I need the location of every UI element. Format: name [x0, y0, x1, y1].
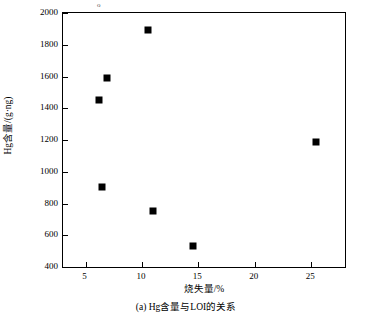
y-axis-tick-label: 600 — [45, 229, 59, 239]
y-axis-tick — [63, 108, 68, 109]
data-point — [150, 208, 157, 215]
x-axis-tick-label: 25 — [306, 271, 315, 281]
data-point — [144, 26, 151, 33]
data-point — [189, 242, 196, 249]
y-axis-tick-label: 2000 — [40, 7, 58, 17]
y-axis-tick — [63, 45, 68, 46]
x-axis-tick — [86, 262, 87, 267]
y-axis-title: Hg含量/(g·ng) — [3, 71, 14, 181]
x-axis-tick-label: 5 — [82, 271, 87, 281]
y-axis-tick — [63, 140, 68, 141]
y-axis-tick — [63, 13, 68, 14]
y-axis-tick — [63, 172, 68, 173]
y-axis-tick-label: 1600 — [40, 71, 58, 81]
figure-caption: (a) Hg含量与LOI的关系 — [0, 302, 372, 313]
data-point — [96, 97, 103, 104]
data-point — [103, 75, 110, 82]
x-axis-tick-label: 20 — [249, 271, 258, 281]
y-axis-tick-label: 1400 — [40, 102, 58, 112]
x-axis-tick — [142, 262, 143, 267]
y-axis-tick-label: 800 — [45, 198, 59, 208]
y-axis-tick — [63, 77, 68, 78]
plot-area — [62, 12, 346, 268]
x-axis-tick — [255, 262, 256, 267]
y-axis-tick — [63, 204, 68, 205]
x-axis-tick-labels: 510152025 — [62, 271, 346, 285]
data-point — [99, 183, 106, 190]
y-axis-tick — [63, 267, 68, 268]
y-axis-tick-label: 400 — [45, 261, 59, 271]
x-axis-title: 烧失量/% — [62, 284, 346, 295]
y-axis-tick-label: 1000 — [40, 166, 58, 176]
x-axis-tick — [198, 262, 199, 267]
data-point — [312, 139, 319, 146]
figure-container: o 400600800100012001400160018002000 5101… — [0, 0, 372, 321]
y-axis-tick-labels: 400600800100012001400160018002000 — [24, 12, 58, 268]
corner-mark: o — [97, 1, 101, 9]
x-axis-tick — [311, 262, 312, 267]
y-axis-tick — [63, 235, 68, 236]
y-axis-tick-label: 1800 — [40, 39, 58, 49]
x-axis-tick-label: 15 — [193, 271, 202, 281]
y-axis-tick-label: 1200 — [40, 134, 58, 144]
x-axis-tick-label: 10 — [136, 271, 145, 281]
